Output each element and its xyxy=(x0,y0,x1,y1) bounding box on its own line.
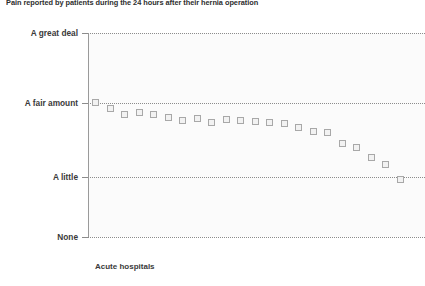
point-estimate-marker xyxy=(165,114,172,121)
point-estimate-marker xyxy=(295,124,302,131)
point-estimate-marker xyxy=(107,105,114,112)
point-estimate-marker xyxy=(252,118,259,125)
point-estimate-marker xyxy=(194,115,201,122)
point-estimate-marker xyxy=(281,120,288,127)
chart-container: Pain reported by patients during the 24 … xyxy=(0,0,425,286)
gridline xyxy=(88,33,425,34)
y-axis-line xyxy=(88,33,89,237)
point-estimate-marker xyxy=(121,111,128,118)
point-estimate-marker xyxy=(353,144,360,151)
point-estimate-marker xyxy=(397,176,404,183)
chart-title: Pain reported by patients during the 24 … xyxy=(6,0,421,7)
point-estimate-marker xyxy=(339,140,346,147)
gridline xyxy=(88,103,425,104)
point-estimate-marker xyxy=(237,117,244,124)
point-estimate-marker xyxy=(208,119,215,126)
point-estimate-marker xyxy=(179,117,186,124)
point-estimate-marker xyxy=(382,161,389,168)
point-estimate-marker xyxy=(266,119,273,126)
point-estimate-marker xyxy=(223,116,230,123)
point-estimate-marker xyxy=(150,111,157,118)
y-axis-tick xyxy=(82,237,89,238)
plot-area xyxy=(88,33,425,237)
x-axis-title: Acute hospitals xyxy=(95,262,155,271)
y-axis-label: A fair amount xyxy=(25,98,78,108)
gridline xyxy=(88,177,425,178)
y-axis-label: A great deal xyxy=(31,28,78,38)
point-estimate-marker xyxy=(310,128,317,135)
y-axis-label: A little xyxy=(53,172,78,182)
point-estimate-marker xyxy=(368,154,375,161)
point-estimate-marker xyxy=(324,129,331,136)
y-axis-label: None xyxy=(57,232,78,242)
point-estimate-marker xyxy=(136,109,143,116)
point-estimate-marker xyxy=(92,99,99,106)
gridline xyxy=(88,237,425,238)
